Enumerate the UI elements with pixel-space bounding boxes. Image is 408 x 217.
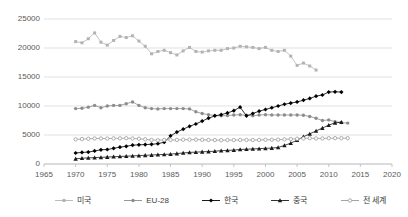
legend-label-1: EU-28 (146, 196, 169, 205)
marker-4-38 (314, 137, 317, 140)
marker-3-39 (320, 126, 324, 130)
legend-item-4[interactable]: 전 세계 (340, 196, 386, 205)
marker-1-15 (169, 107, 172, 110)
marker-0-19 (194, 50, 197, 53)
marker-1-0 (74, 107, 77, 110)
marker-0-21 (207, 49, 210, 52)
marker-4-17 (182, 138, 185, 141)
marker-4-0 (74, 138, 77, 141)
marker-1-8 (125, 102, 128, 105)
marker-0-33 (283, 49, 286, 52)
series-2 (74, 90, 344, 155)
marker-4-28 (251, 138, 254, 141)
x-tick-label-2005: 2005 (281, 170, 313, 179)
marker-1-14 (163, 107, 166, 110)
marker-4-34 (289, 137, 292, 140)
marker-4-4 (99, 137, 102, 140)
marker-1-11 (144, 106, 147, 109)
x-tick-label-2010: 2010 (313, 170, 345, 179)
marker-2-6 (112, 146, 116, 150)
legend-marker-shape (209, 198, 213, 202)
marker-legend2-0 (209, 198, 213, 202)
marker-legend0-0 (63, 199, 66, 202)
legend-item-0[interactable]: 미국 (54, 196, 91, 205)
marker-0-10 (137, 40, 140, 43)
marker-1-37 (308, 115, 311, 118)
x-tick-label-2015: 2015 (344, 170, 376, 179)
marker-1-29 (257, 113, 260, 116)
marker-4-15 (169, 138, 172, 141)
series-line-4 (76, 138, 348, 140)
marker-1-36 (302, 114, 305, 117)
marker-0-23 (220, 49, 223, 52)
marker-2-20 (200, 119, 204, 123)
marker-4-21 (207, 138, 210, 141)
marker-4-27 (245, 138, 248, 141)
marker-4-41 (333, 136, 336, 139)
marker-1-4 (99, 106, 102, 109)
marker-4-31 (270, 138, 273, 141)
marker-0-36 (302, 62, 305, 65)
marker-4-32 (276, 138, 279, 141)
marker-2-4 (99, 148, 103, 152)
marker-2-18 (187, 124, 191, 128)
marker-3-37 (308, 132, 312, 136)
marker-2-7 (118, 145, 122, 149)
marker-1-17 (182, 107, 185, 110)
marker-4-40 (327, 136, 330, 139)
marker-0-25 (232, 47, 235, 50)
marker-4-29 (257, 138, 260, 141)
marker-1-26 (238, 113, 241, 116)
marker-0-24 (226, 47, 229, 50)
marker-4-1 (80, 137, 83, 140)
marker-2-34 (289, 101, 293, 105)
marker-0-8 (125, 36, 128, 39)
marker-1-12 (150, 107, 153, 110)
marker-2-16 (175, 130, 179, 134)
marker-4-37 (308, 136, 311, 139)
x-tick-label-1990: 1990 (186, 170, 218, 179)
legend-marker-triangle-filled-icon (270, 196, 290, 205)
marker-2-10 (137, 143, 141, 147)
marker-2-38 (314, 94, 318, 98)
marker-2-17 (181, 127, 185, 131)
legend-item-1[interactable]: EU-28 (123, 196, 169, 205)
x-tick-label-2020: 2020 (376, 170, 408, 179)
marker-4-22 (213, 138, 216, 141)
marker-0-18 (188, 46, 191, 49)
marker-1-34 (289, 113, 292, 116)
marker-2-29 (257, 109, 261, 113)
legend-item-2[interactable]: 한국 (201, 196, 238, 205)
marker-1-7 (118, 104, 121, 107)
marker-1-1 (80, 107, 83, 110)
marker-1-38 (314, 116, 317, 119)
marker-3-34 (289, 141, 293, 145)
marker-2-3 (93, 149, 97, 153)
series-line-1 (76, 102, 348, 123)
marker-1-9 (131, 100, 134, 103)
marker-2-41 (333, 90, 337, 94)
marker-2-22 (213, 114, 217, 118)
marker-4-13 (156, 139, 159, 142)
legend-item-3[interactable]: 중국 (270, 196, 307, 205)
marker-4-26 (238, 138, 241, 141)
marker-4-18 (188, 138, 191, 141)
legend-label-0: 미국 (77, 196, 91, 205)
marker-0-12 (150, 52, 153, 55)
marker-1-18 (188, 107, 191, 110)
marker-0-29 (258, 47, 261, 50)
y-tick-label-20000: 20000 (0, 43, 40, 52)
marker-1-19 (194, 110, 197, 113)
marker-0-17 (182, 49, 185, 52)
marker-2-9 (130, 143, 134, 147)
marker-2-42 (339, 90, 343, 94)
legend-label-3: 중국 (293, 196, 307, 205)
marker-2-40 (327, 90, 331, 94)
marker-0-32 (277, 50, 280, 53)
grid-lines (44, 19, 392, 164)
marker-2-19 (194, 122, 198, 126)
marker-2-39 (320, 93, 324, 97)
marker-0-16 (175, 53, 178, 56)
series-line-2 (76, 92, 342, 153)
marker-0-9 (131, 34, 134, 37)
